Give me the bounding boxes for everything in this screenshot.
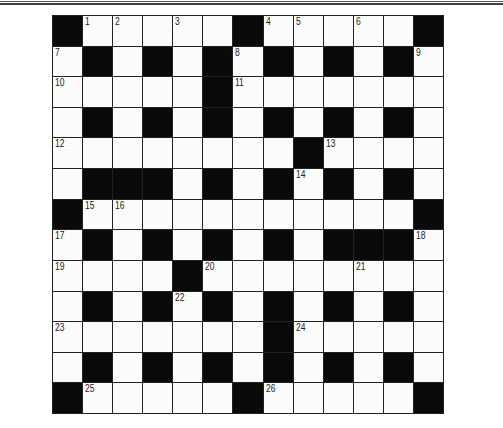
answer-cell[interactable] [173, 77, 202, 107]
answer-cell[interactable] [294, 200, 323, 230]
answer-cell[interactable]: 2 [113, 16, 142, 46]
answer-cell[interactable] [143, 261, 172, 291]
answer-cell[interactable] [173, 200, 202, 230]
answer-cell[interactable] [113, 261, 142, 291]
answer-cell[interactable]: 16 [113, 200, 142, 230]
answer-cell[interactable] [294, 383, 323, 413]
answer-cell[interactable] [233, 230, 262, 260]
answer-cell[interactable] [324, 200, 353, 230]
answer-cell[interactable] [264, 261, 293, 291]
answer-cell[interactable] [113, 383, 142, 413]
answer-cell[interactable] [83, 138, 112, 168]
answer-cell[interactable] [203, 322, 232, 352]
answer-cell[interactable]: 21 [354, 261, 383, 291]
answer-cell[interactable]: 7 [53, 47, 82, 77]
answer-cell[interactable] [113, 353, 142, 383]
answer-cell[interactable]: 3 [173, 16, 202, 46]
answer-cell[interactable] [173, 353, 202, 383]
answer-cell[interactable] [384, 77, 413, 107]
answer-cell[interactable]: 19 [53, 261, 82, 291]
answer-cell[interactable]: 8 [233, 47, 262, 77]
answer-cell[interactable]: 18 [414, 230, 443, 260]
answer-cell[interactable] [384, 322, 413, 352]
answer-cell[interactable] [414, 138, 443, 168]
answer-cell[interactable] [113, 230, 142, 260]
answer-cell[interactable] [354, 169, 383, 199]
answer-cell[interactable] [384, 16, 413, 46]
answer-cell[interactable] [264, 138, 293, 168]
answer-cell[interactable] [173, 230, 202, 260]
answer-cell[interactable] [324, 261, 353, 291]
answer-cell[interactable]: 23 [53, 322, 82, 352]
answer-cell[interactable]: 26 [264, 383, 293, 413]
answer-cell[interactable] [113, 47, 142, 77]
answer-cell[interactable] [203, 138, 232, 168]
answer-cell[interactable] [233, 322, 262, 352]
answer-cell[interactable] [324, 77, 353, 107]
answer-cell[interactable] [354, 292, 383, 322]
answer-cell[interactable] [384, 383, 413, 413]
answer-cell[interactable] [53, 108, 82, 138]
answer-cell[interactable]: 4 [264, 16, 293, 46]
answer-cell[interactable]: 1 [83, 16, 112, 46]
answer-cell[interactable] [53, 169, 82, 199]
answer-cell[interactable] [53, 353, 82, 383]
answer-cell[interactable] [324, 322, 353, 352]
answer-cell[interactable]: 25 [83, 383, 112, 413]
answer-cell[interactable] [294, 230, 323, 260]
answer-cell[interactable]: 13 [324, 138, 353, 168]
answer-cell[interactable] [143, 138, 172, 168]
answer-cell[interactable] [233, 169, 262, 199]
answer-cell[interactable] [173, 169, 202, 199]
answer-cell[interactable] [173, 383, 202, 413]
answer-cell[interactable] [233, 200, 262, 230]
answer-cell[interactable] [354, 138, 383, 168]
answer-cell[interactable] [414, 77, 443, 107]
answer-cell[interactable] [113, 108, 142, 138]
answer-cell[interactable] [414, 322, 443, 352]
answer-cell[interactable] [143, 16, 172, 46]
answer-cell[interactable] [264, 77, 293, 107]
answer-cell[interactable] [414, 108, 443, 138]
answer-cell[interactable] [83, 261, 112, 291]
answer-cell[interactable]: 22 [173, 292, 202, 322]
answer-cell[interactable] [143, 200, 172, 230]
answer-cell[interactable] [294, 292, 323, 322]
answer-cell[interactable]: 20 [203, 261, 232, 291]
answer-cell[interactable] [113, 292, 142, 322]
answer-cell[interactable] [384, 138, 413, 168]
answer-cell[interactable] [233, 138, 262, 168]
answer-cell[interactable] [173, 108, 202, 138]
answer-cell[interactable] [354, 383, 383, 413]
answer-cell[interactable]: 17 [53, 230, 82, 260]
answer-cell[interactable]: 9 [414, 47, 443, 77]
answer-cell[interactable] [414, 169, 443, 199]
answer-cell[interactable] [53, 292, 82, 322]
answer-cell[interactable] [294, 108, 323, 138]
answer-cell[interactable] [414, 292, 443, 322]
answer-cell[interactable] [233, 108, 262, 138]
answer-cell[interactable]: 15 [83, 200, 112, 230]
answer-cell[interactable] [83, 322, 112, 352]
answer-cell[interactable] [324, 383, 353, 413]
answer-cell[interactable] [354, 77, 383, 107]
answer-cell[interactable] [354, 47, 383, 77]
answer-cell[interactable]: 11 [233, 77, 262, 107]
answer-cell[interactable] [264, 200, 293, 230]
answer-cell[interactable]: 12 [53, 138, 82, 168]
answer-cell[interactable]: 24 [294, 322, 323, 352]
answer-cell[interactable] [414, 353, 443, 383]
answer-cell[interactable] [233, 353, 262, 383]
answer-cell[interactable] [414, 261, 443, 291]
answer-cell[interactable] [354, 200, 383, 230]
answer-cell[interactable] [203, 383, 232, 413]
answer-cell[interactable] [203, 16, 232, 46]
answer-cell[interactable] [113, 77, 142, 107]
answer-cell[interactable] [143, 322, 172, 352]
answer-cell[interactable] [173, 138, 202, 168]
answer-cell[interactable]: 5 [294, 16, 323, 46]
answer-cell[interactable] [233, 261, 262, 291]
answer-cell[interactable] [354, 353, 383, 383]
answer-cell[interactable] [294, 353, 323, 383]
answer-cell[interactable] [143, 77, 172, 107]
